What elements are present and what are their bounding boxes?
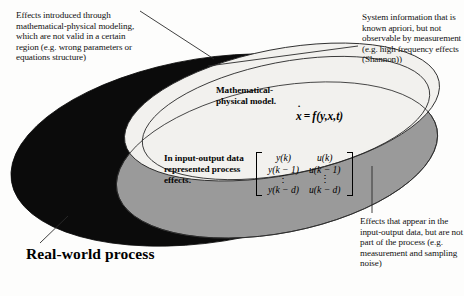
real-world-process-label: Real-world process xyxy=(26,245,155,263)
input-output-data-label: In input-output data represented process… xyxy=(164,153,254,186)
annotation-top-left: Effects introduced through mathematical-… xyxy=(16,10,138,63)
state-equation: x=f(y,x,t) xyxy=(296,110,343,122)
matrix-row: ⋮⋮ xyxy=(263,175,346,184)
matrix-table: y(k)u(k)y(k − 1)u(k − 1)⋮⋮y(k − d)u(k − … xyxy=(263,152,346,196)
matrix-cell: ⋮ xyxy=(263,175,304,184)
input-output-data-matrix: y(k)u(k)y(k − 1)u(k − 1)⋮⋮y(k − d)u(k − … xyxy=(256,152,353,196)
venn-diagram-figure: Effects introduced through mathematical-… xyxy=(0,0,464,296)
matrix-cell: u(k) xyxy=(304,152,346,164)
matrix-row: y(k − d)u(k − d) xyxy=(263,184,346,196)
mathematical-model-label: Mathematical-physical model. xyxy=(216,85,280,107)
equation-operator: = xyxy=(302,110,313,122)
annotation-top-right: System information that is known apriori… xyxy=(362,12,462,65)
matrix-row: y(k − 1)u(k − 1) xyxy=(263,164,346,176)
matrix-cell: ⋮ xyxy=(304,175,346,184)
state-symbol: x xyxy=(296,110,302,122)
matrix-row: y(k)u(k) xyxy=(263,152,346,164)
leader-line-top-left xyxy=(140,11,214,59)
matrix-cell: u(k − d) xyxy=(304,184,346,196)
matrix-cell: y(k) xyxy=(263,152,304,164)
matrix-cell: y(k − d) xyxy=(263,184,304,196)
annotation-bottom-right: Effects that appear in the input-output … xyxy=(360,216,464,269)
equation-rhs: f(y,x,t) xyxy=(312,110,343,122)
matrix-left-bracket xyxy=(256,152,262,196)
matrix-right-bracket xyxy=(347,152,353,196)
